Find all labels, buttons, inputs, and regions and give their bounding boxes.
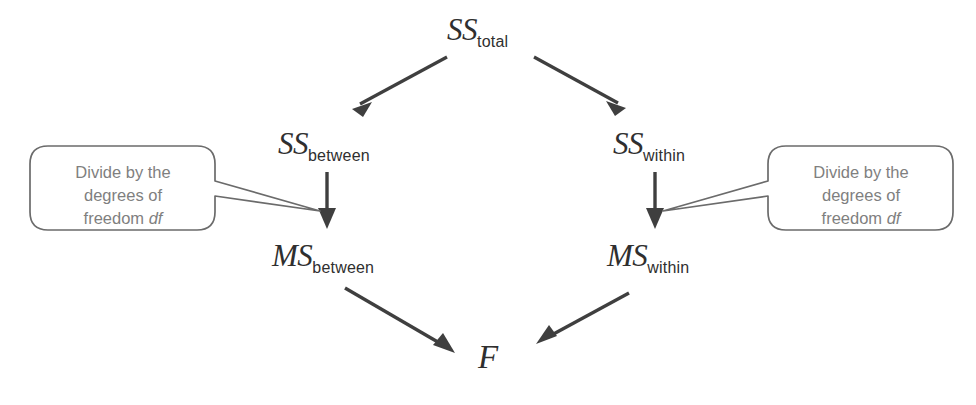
arrow-ms-between-to-f [345, 288, 455, 353]
node-ms-within-base: MS [607, 238, 647, 273]
node-ss-total: SStotal [447, 14, 508, 45]
anova-diagram-canvas: SStotal SSbetween SSwithin MSbetween MSw… [0, 0, 976, 405]
callout-left-line3-df: df [149, 209, 163, 227]
node-ms-between: MSbetween [272, 240, 374, 271]
callout-left-line3-prefix: freedom [84, 209, 149, 227]
node-ss-total-base: SS [447, 12, 477, 47]
arrow-ss-within-to-ms-within [646, 172, 664, 229]
node-ms-within-subscript: within [647, 259, 689, 276]
node-ss-between-base: SS [278, 126, 308, 161]
callout-right-line3: freedom df [768, 207, 954, 230]
callout-right-line2: degrees of [768, 184, 954, 207]
arrow-ss-total-to-ss-within [534, 57, 626, 116]
node-ms-within: MSwithin [607, 240, 689, 271]
node-ss-within-base: SS [613, 126, 643, 161]
node-ss-total-subscript: total [477, 33, 508, 50]
arrow-ss-between-to-ms-between [318, 172, 336, 229]
callout-left-line1: Divide by the [30, 161, 216, 184]
callout-right-line1: Divide by the [768, 161, 954, 184]
callout-right-line3-prefix: freedom [822, 209, 887, 227]
callout-left-line2: degrees of [30, 184, 216, 207]
node-ms-between-subscript: between [312, 259, 374, 276]
arrow-ms-within-to-f [536, 293, 629, 344]
node-f-base: F [478, 339, 498, 375]
callout-left-line3: freedom df [30, 207, 216, 230]
node-ss-between-subscript: between [308, 147, 370, 164]
node-ss-between: SSbetween [278, 128, 370, 159]
node-ms-between-base: MS [272, 238, 312, 273]
node-ss-within-subscript: within [643, 147, 685, 164]
callout-right-text: Divide by the degrees of freedom df [768, 161, 954, 230]
node-f: F [478, 341, 498, 374]
arrow-ss-total-to-ss-between [352, 57, 447, 117]
node-ss-within: SSwithin [613, 128, 685, 159]
callout-right-line3-df: df [887, 209, 901, 227]
callout-left-text: Divide by the degrees of freedom df [30, 161, 216, 230]
